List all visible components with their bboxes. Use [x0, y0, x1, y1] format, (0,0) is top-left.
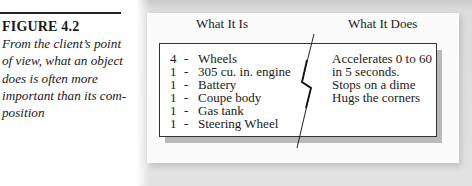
lightning-bolt-divider-icon [0, 0, 472, 186]
